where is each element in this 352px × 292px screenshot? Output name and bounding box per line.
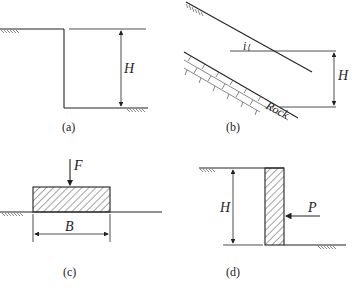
panel-caption: (d) <box>226 265 240 279</box>
ground-symbol-icon <box>200 169 215 172</box>
slope-angle-arc <box>249 44 250 51</box>
panel-c: F B (c) <box>0 158 162 279</box>
footing-block <box>33 187 110 212</box>
slope-surface <box>186 2 312 72</box>
ground-symbol-icon <box>2 213 23 216</box>
panel-d: H P (d) <box>199 168 346 279</box>
slope-angle-label: i <box>243 39 246 53</box>
height-label: H <box>123 61 135 76</box>
panel-caption: (b) <box>226 120 240 134</box>
panel-caption: (a) <box>62 120 75 134</box>
ground-symbol-icon <box>127 109 145 112</box>
rock-label: Rock <box>263 98 292 122</box>
panel-caption: (c) <box>63 265 76 279</box>
diagram-canvas: H (a) i H <box>0 0 352 292</box>
force-label: F <box>73 158 83 173</box>
height-label: H <box>337 68 349 83</box>
ground-symbol-icon <box>318 246 336 249</box>
height-label: H <box>219 200 231 215</box>
ground-symbol-icon <box>1 30 19 33</box>
panel-b: i H Rock (b) <box>184 2 349 134</box>
retaining-wall <box>265 168 284 245</box>
force-label: P <box>307 200 317 215</box>
width-label: B <box>65 219 74 234</box>
panel-a: H (a) <box>0 29 148 134</box>
